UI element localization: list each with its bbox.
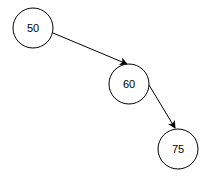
tree-node-60: 60	[109, 64, 149, 104]
edge-50-to-60	[53, 33, 127, 64]
node-label: 50	[27, 22, 39, 34]
tree-diagram: 50 60 75	[0, 0, 209, 179]
node-label: 75	[172, 143, 184, 155]
tree-node-75: 75	[158, 129, 198, 169]
edge-60-to-75	[149, 85, 175, 128]
tree-node-50: 50	[13, 8, 53, 48]
node-label: 60	[123, 78, 135, 90]
